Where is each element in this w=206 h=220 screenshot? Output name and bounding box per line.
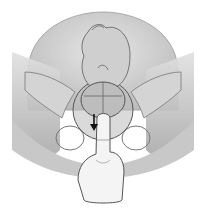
- fetus: [81, 25, 130, 118]
- illustration-canvas: [0, 0, 206, 220]
- medical-illustration: Grayscale medical illustration: fetus in…: [0, 0, 206, 220]
